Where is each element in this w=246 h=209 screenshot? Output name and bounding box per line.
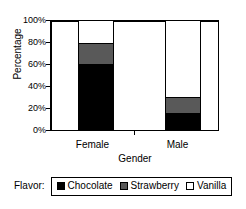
stacked-bar-chart: Percentage 100% 80% 60% 40% 20% 0% — [0, 0, 246, 209]
legend-box: Chocolate Strawberry Vanilla — [51, 177, 233, 196]
legend: Flavor: Chocolate Strawberry Vanilla — [14, 176, 232, 196]
legend-swatch-icon — [120, 182, 128, 190]
legend-item-label: Chocolate — [68, 181, 113, 191]
y-tick-label: 100% — [16, 16, 46, 25]
legend-item-chocolate: Chocolate — [57, 181, 113, 191]
bar-segment-vanilla — [166, 21, 200, 97]
y-tick-label: 40% — [16, 82, 46, 91]
legend-swatch-icon — [57, 182, 65, 190]
bar-segment-chocolate — [166, 114, 200, 130]
x-tick-label-male: Male — [135, 139, 220, 150]
y-tick-label: 80% — [16, 38, 46, 47]
bar-segment-strawberry — [79, 43, 113, 65]
y-tick-label: 60% — [16, 60, 46, 69]
x-axis-title: Gender — [50, 153, 220, 164]
bar-female — [78, 21, 114, 130]
y-tick-label: 20% — [16, 104, 46, 113]
legend-title: Flavor: — [14, 181, 45, 191]
bar-male — [165, 21, 201, 130]
x-tick-mark — [134, 131, 135, 135]
legend-item-vanilla: Vanilla — [186, 181, 226, 191]
legend-item-strawberry: Strawberry — [120, 181, 179, 191]
legend-item-label: Vanilla — [197, 181, 226, 191]
x-axis-tick-marks — [50, 131, 220, 136]
y-tick-label: 0% — [16, 126, 46, 135]
bar-segment-vanilla — [79, 21, 113, 43]
legend-item-label: Strawberry — [131, 181, 179, 191]
legend-swatch-icon — [186, 182, 194, 190]
x-tick-label-female: Female — [50, 139, 135, 150]
plot-area — [50, 20, 219, 131]
bar-segment-strawberry — [166, 97, 200, 113]
bar-segment-chocolate — [79, 65, 113, 130]
